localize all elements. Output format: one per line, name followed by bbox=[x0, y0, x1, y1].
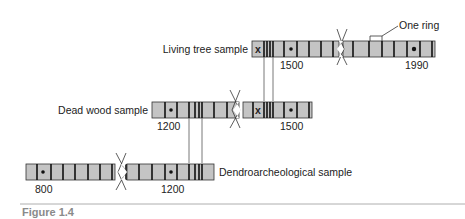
living-year-1990: 1990 bbox=[405, 59, 429, 71]
ring-marker-dot bbox=[412, 47, 416, 51]
one-ring-bracket bbox=[370, 36, 382, 41]
dendro-year-800: 800 bbox=[35, 183, 53, 195]
cross-marker: x bbox=[255, 104, 261, 116]
dead-wood-label: Dead wood sample bbox=[58, 104, 148, 116]
dendro-bar bbox=[26, 153, 214, 190]
ring-marker-dot bbox=[41, 170, 45, 174]
ring-marker-dot bbox=[289, 108, 293, 112]
dendro-year-1200: 1200 bbox=[161, 183, 185, 195]
ring-marker-dot bbox=[289, 47, 293, 51]
crossdating-diagram: x One ring Living tree sample 1500 1990 bbox=[0, 0, 465, 219]
figure-caption: Figure 1.4 bbox=[22, 206, 75, 218]
living-year-1500: 1500 bbox=[280, 59, 304, 71]
ring-marker-dot bbox=[169, 108, 173, 112]
living-tree-label: Living tree sample bbox=[163, 43, 248, 55]
one-ring-label: One ring bbox=[399, 19, 439, 31]
dead-year-1500: 1500 bbox=[280, 120, 304, 132]
ring-marker-dot bbox=[169, 170, 173, 174]
cross-marker: x bbox=[255, 43, 261, 55]
dead-year-1200: 1200 bbox=[157, 120, 181, 132]
dendro-label: Dendroarcheological sample bbox=[219, 166, 352, 178]
